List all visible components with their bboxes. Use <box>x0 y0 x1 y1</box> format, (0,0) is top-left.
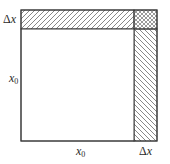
square-expansion-diagram: Δx x0 x0 Δx <box>0 0 170 164</box>
corner-square-region <box>134 10 157 29</box>
main-square-region <box>21 29 134 141</box>
top-strip-region <box>21 10 134 29</box>
left-side-label: x0 <box>8 71 18 86</box>
right-strip-label: Δx <box>139 144 153 158</box>
right-strip-region <box>134 29 157 141</box>
bottom-side-label: x0 <box>75 144 85 159</box>
top-strip-label: Δx <box>3 12 17 26</box>
